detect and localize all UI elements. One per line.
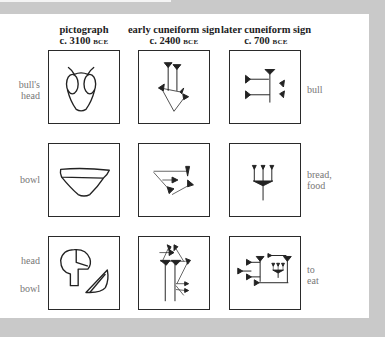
row-label-left-top: head [0,255,40,266]
sign-box [138,50,210,124]
sign-box [229,143,301,217]
sign-box [48,50,120,124]
bull-early-cuneiform-icon [139,51,209,123]
column-title: early cuneiform sign [124,24,224,35]
sign-box [138,236,210,310]
sign-box [48,236,120,310]
column-header-pictograph: pictograph c. 3100 BCE [34,24,134,48]
column-date: c. 3100 BCE [34,35,134,48]
bread-early-cuneiform-icon [139,144,209,216]
column-date: c. 2400 BCE [124,35,224,48]
sign-box [229,236,301,310]
eat-later-cuneiform-icon [230,237,300,309]
bowl-pictograph-icon [49,144,119,216]
row-label-left-bottom: bowl [0,283,40,294]
row-label-right: to eat [307,264,319,286]
column-date: c. 700 BCE [216,35,316,48]
top-strip [0,0,171,2]
bread-later-cuneiform-icon [230,144,300,216]
sign-box [138,143,210,217]
row-label-left: bowl [0,174,40,185]
column-header-later-cuneiform: later cuneiform sign c. 700 BCE [216,24,316,48]
sign-box [48,143,120,217]
column-title: later cuneiform sign [216,24,316,35]
bulls-head-pictograph-icon [49,51,119,123]
column-header-early-cuneiform: early cuneiform sign c. 2400 BCE [124,24,224,48]
column-title: pictograph [34,24,134,35]
head-and-bowl-pictograph-icon [49,237,119,309]
row-label-right: bread, food [307,169,332,191]
row-label-right: bull [307,84,323,95]
row-label-left: bull's head [0,79,40,101]
bull-later-cuneiform-icon [230,51,300,123]
sign-box [229,50,301,124]
eat-early-cuneiform-icon [139,237,209,309]
